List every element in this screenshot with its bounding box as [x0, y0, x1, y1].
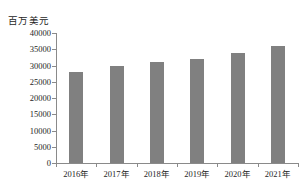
x-tick-mark	[258, 163, 259, 167]
y-tick-mark	[52, 33, 56, 34]
y-tick-label: 25000	[30, 77, 51, 86]
x-tick-mark	[56, 163, 57, 167]
y-axis-title: 百万美元	[8, 16, 49, 27]
x-tick-mark	[298, 163, 299, 167]
x-tick-label: 2016年	[63, 169, 89, 179]
y-tick-mark	[52, 98, 56, 99]
x-tick-label: 2018年	[144, 169, 170, 179]
bar	[190, 59, 204, 163]
y-tick-mark	[52, 114, 56, 115]
y-tick-label: 15000	[30, 110, 51, 119]
x-tick-label: 2019年	[184, 169, 210, 179]
y-tick-label: 0	[47, 159, 51, 168]
bar	[110, 66, 124, 164]
x-tick-mark	[177, 163, 178, 167]
y-tick-label: 20000	[30, 94, 51, 103]
y-tick-label: 10000	[30, 126, 51, 135]
x-tick-mark	[137, 163, 138, 167]
y-tick-mark	[52, 147, 56, 148]
bar-chart: 百万美元 05000100001500020000250003000035000…	[0, 0, 302, 192]
y-tick-label: 5000	[34, 142, 51, 151]
bar	[271, 46, 285, 163]
bar	[150, 62, 164, 163]
bar	[69, 72, 83, 163]
plot-area: 0500010000150002000025000300003500040000	[56, 33, 298, 163]
y-tick-mark	[52, 49, 56, 50]
y-tick-mark	[52, 82, 56, 83]
x-tick-mark	[217, 163, 218, 167]
y-tick-label: 40000	[30, 29, 51, 38]
y-tick-label: 35000	[30, 45, 51, 54]
bar	[231, 53, 245, 164]
y-tick-mark	[52, 131, 56, 132]
y-tick-label: 30000	[30, 61, 51, 70]
x-tick-label: 2021年	[265, 169, 291, 179]
x-tick-mark	[96, 163, 97, 167]
x-tick-label: 2017年	[104, 169, 130, 179]
y-tick-mark	[52, 66, 56, 67]
x-tick-label: 2020年	[225, 169, 251, 179]
